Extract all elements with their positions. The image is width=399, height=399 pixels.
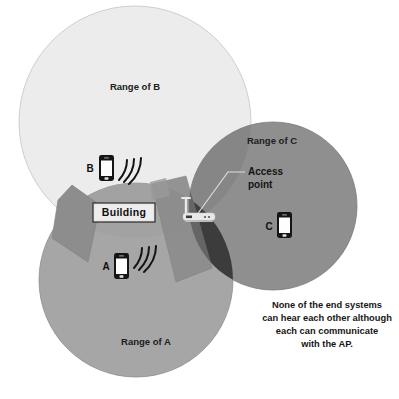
smartphone-icon bbox=[99, 155, 114, 181]
range-label-c: Range of C bbox=[247, 135, 297, 146]
caption-line-4: with the AP. bbox=[300, 339, 353, 349]
caption-line-1: None of the end systems bbox=[272, 300, 382, 310]
diagram-canvas: Building Access point B bbox=[0, 0, 399, 399]
access-point-label-line1: Access bbox=[248, 166, 283, 177]
building-label: Building bbox=[102, 206, 146, 218]
building-block: Building bbox=[93, 203, 155, 222]
caption-line-2: can hear each other although bbox=[262, 313, 392, 323]
range-label-a: Range of A bbox=[121, 336, 171, 347]
device-c-label: C bbox=[265, 221, 272, 232]
caption-line-3: each can communicate bbox=[276, 326, 378, 336]
range-label-b: Range of B bbox=[110, 81, 160, 92]
device-a-label: A bbox=[102, 261, 109, 272]
coverage-diagram-svg: Building Access point B bbox=[0, 0, 399, 399]
device-b-label: B bbox=[86, 163, 93, 174]
access-point-label-line2: point bbox=[248, 179, 273, 190]
smartphone-icon bbox=[114, 253, 129, 279]
smartphone-icon bbox=[277, 212, 292, 238]
